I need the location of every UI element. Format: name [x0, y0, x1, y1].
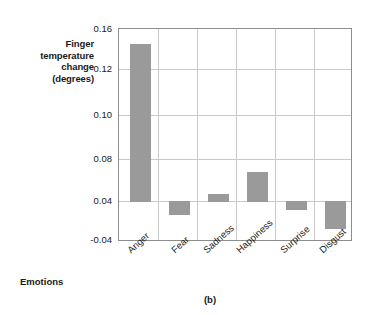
gridline-horizontal: [119, 69, 351, 70]
bar-sadness: [208, 194, 229, 202]
gridline-vertical: [275, 29, 276, 240]
plot-inner: [119, 29, 351, 240]
y-tick-label: 0.12: [68, 63, 112, 74]
y-tick-label: 0.04: [68, 195, 112, 206]
bar-disgust: [325, 201, 346, 229]
figure-caption: (b): [0, 294, 370, 305]
y-tick-label: 0.08: [68, 153, 112, 164]
gridline-vertical: [197, 29, 198, 240]
y-tick-label: 0.16: [68, 23, 112, 34]
y-axis-title: Finger temperature change (degrees): [8, 38, 94, 84]
y-axis-title-line-2: temperature: [8, 50, 94, 62]
gridline-vertical: [158, 29, 159, 240]
y-axis-title-line-4: (degrees): [8, 73, 94, 85]
gridline-horizontal: [119, 201, 351, 202]
y-tick-label: 0.10: [68, 109, 112, 120]
gridline-horizontal: [119, 159, 351, 160]
y-axis-title-line-1: Finger: [8, 38, 94, 50]
y-tick-label: -0.04: [68, 234, 112, 245]
gridline-vertical: [236, 29, 237, 240]
bar-anger: [130, 44, 151, 202]
figure-panel-b: Finger temperature change (degrees) 0.16…: [0, 0, 370, 315]
bar-fear: [169, 201, 190, 215]
bar-happiness: [247, 172, 268, 202]
gridline-vertical: [314, 29, 315, 240]
plot-area: [118, 28, 352, 241]
gridline-horizontal: [119, 115, 351, 116]
bar-surprise: [286, 201, 307, 210]
x-axis-title: Emotions: [20, 276, 63, 287]
